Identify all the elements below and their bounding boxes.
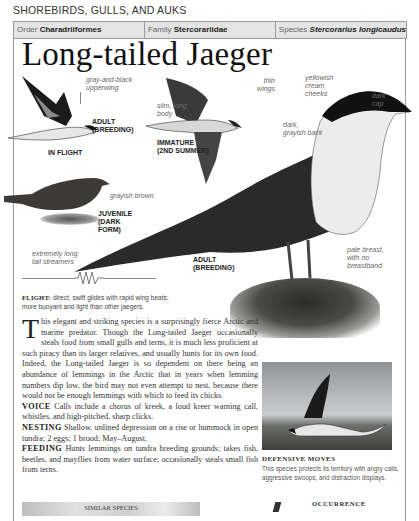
- defensive-moves-text: This species protects its territory with…: [262, 464, 419, 482]
- feeding-label: FEEDING: [22, 444, 62, 453]
- species-value: Stercorarius longicaudus: [310, 25, 406, 34]
- callout-cheeks-3: cheeks: [305, 90, 327, 98]
- voice-section: VOICE Calls include a chorus of kreek, a…: [22, 402, 258, 423]
- similar-species-bar: SIMILAR SPECIES: [22, 502, 200, 516]
- callout-dark-cap-2: cap: [372, 100, 383, 108]
- flying-jaeger-photo-icon: [262, 362, 392, 450]
- callout-tail-1: extremely long: [32, 250, 78, 258]
- callout-breast-2: with no: [347, 254, 369, 262]
- callout-back-2: grayish back: [283, 129, 322, 137]
- callout-dark-cap-1: dark: [372, 92, 386, 100]
- nesting-section: NESTING Shallow, unlined depression on a…: [22, 423, 258, 444]
- callout-cheeks-2: cream: [305, 82, 324, 90]
- page-title: Long-tailed Jaeger: [22, 36, 272, 73]
- voice-label: VOICE: [22, 402, 51, 411]
- caption-adult-main-2: (BREEDING): [193, 264, 235, 273]
- voice-text: Calls include a chorus of kreek, a loud …: [22, 402, 258, 422]
- flight-divider-right: [104, 278, 156, 279]
- occurrence-title: OCCURRENCE: [312, 500, 366, 507]
- feeding-section: FEEDING Hunts lemmings on tundra breedin…: [22, 444, 258, 476]
- defensive-moves-title: DEFENSIVE MOVES: [262, 455, 335, 463]
- flight-divider-left: [22, 278, 74, 279]
- family-value: Stercorariidae: [174, 25, 228, 34]
- section-heading: SHOREBIRDS, GULLS, AND AUKS: [13, 4, 186, 16]
- taxonomy-species: Species Stercorarius longicaudus: [276, 22, 406, 38]
- order-value: Charadriiformes: [40, 25, 102, 34]
- intro-paragraph: his elegant and striking species is a su…: [22, 317, 258, 400]
- callout-tail-2: tail streamers: [32, 258, 74, 266]
- callout-cheeks-1: yellowish: [305, 74, 333, 82]
- species-label: Species: [279, 25, 307, 34]
- species-description: This elegant and striking species is a s…: [22, 317, 258, 476]
- flight-pattern-icon: [74, 271, 104, 285]
- order-label: Order: [17, 25, 37, 34]
- defensive-moves-photo: [262, 362, 392, 450]
- callout-back-1: dark,: [283, 121, 299, 129]
- dropcap: T: [22, 318, 39, 340]
- flight-description: FLIGHT: direct, swift glides with rapid …: [22, 293, 182, 311]
- callout-breast-3: breastband: [347, 262, 382, 270]
- flight-label: FLIGHT:: [22, 294, 51, 301]
- family-label: Family: [148, 25, 172, 34]
- nesting-label: NESTING: [22, 423, 62, 432]
- callout-breast-1: pale breast,: [347, 246, 384, 254]
